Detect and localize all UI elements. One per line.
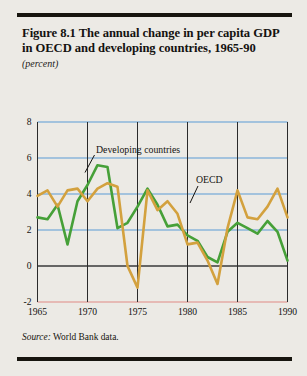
label-developing-countries: Developing countries — [96, 144, 180, 155]
y-tick-0: 0 — [27, 260, 32, 271]
data-series-lines — [38, 165, 288, 287]
x-axis-tick-labels: 196519701975198019851990 — [28, 306, 297, 317]
label-oecd: OECD — [196, 174, 223, 185]
y-tick-6: 6 — [27, 152, 32, 163]
series-line-developing — [38, 165, 288, 262]
line-chart-svg: -202468 196519701975198019851990 Develop… — [0, 0, 307, 376]
y-tick-4: 4 — [27, 188, 32, 199]
figure-card: Figure 8.1 The annual change in per capi… — [0, 0, 307, 376]
x-tick-1965: 1965 — [28, 306, 47, 317]
x-tick-1975: 1975 — [128, 306, 147, 317]
source-label: Source: — [22, 332, 51, 342]
series-line-oecd — [38, 183, 288, 287]
chart-plot-area: -202468 196519701975198019851990 Develop… — [0, 0, 307, 376]
x-tick-1985: 1985 — [228, 306, 247, 317]
y-tick-2: 2 — [27, 224, 32, 235]
x-tick-1990: 1990 — [278, 306, 297, 317]
x-tick-1980: 1980 — [178, 306, 197, 317]
y-tick-8: 8 — [27, 116, 32, 127]
y-axis-tick-labels: -202468 — [24, 116, 32, 307]
bottom-rule — [17, 357, 292, 361]
source-text: World Bank data. — [53, 332, 119, 342]
x-tick-1970: 1970 — [78, 306, 97, 317]
source-note: Source: World Bank data. — [22, 332, 119, 342]
